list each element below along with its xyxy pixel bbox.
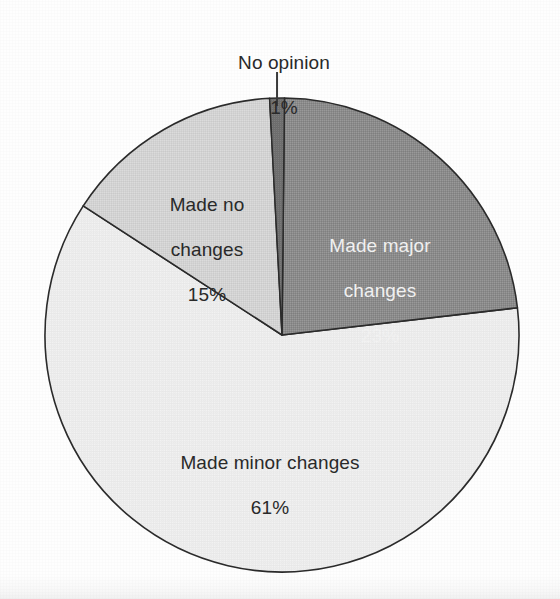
made-major-changes-name-line2: changes [100,280,560,302]
slice-label-made-major-changes: Made major changes 23% [100,213,560,370]
made-minor-changes-value: 61% [0,497,550,519]
made-major-changes-value: 23% [100,325,560,347]
no-opinion-value: 1% [4,97,560,119]
made-major-changes-name-line1: Made major [100,235,560,257]
no-opinion-name: No opinion [4,52,560,74]
pie-chart: No opinion 1% Made no changes 15% Made m… [0,0,560,599]
slice-label-no-opinion: No opinion 1% [4,30,560,142]
slice-label-made-minor-changes: Made minor changes 61% [0,430,550,542]
made-minor-changes-name: Made minor changes [0,452,550,474]
